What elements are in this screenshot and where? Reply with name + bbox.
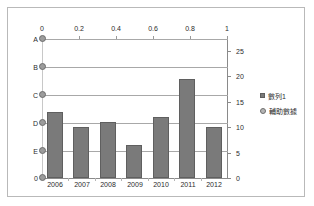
marker-point-c[interactable] — [39, 91, 46, 98]
gridline-b — [42, 67, 228, 68]
right-tick-25 — [227, 51, 231, 52]
top-tick-label-0-6: 0.6 — [148, 25, 158, 32]
top-tick-label-0-2: 0.2 — [74, 25, 84, 32]
gridline-a — [42, 39, 228, 40]
chart-frame: A B C D E 0 0 5 10 15 20 25 0 0.2 0.4 0.… — [7, 7, 305, 197]
right-tick-label-25: 25 — [236, 48, 244, 55]
bar-2010[interactable] — [153, 117, 169, 178]
right-axis-labels: 0 5 10 15 20 25 — [236, 39, 260, 179]
bar-2009[interactable] — [126, 145, 142, 178]
chart-legend: 數列1 輔助數據 — [260, 91, 308, 121]
legend-label-auxdata: 輔助數據 — [269, 106, 297, 116]
category-label-2012: 2012 — [206, 181, 222, 188]
legend-square-icon — [260, 93, 265, 98]
category-label-2009: 2009 — [127, 181, 143, 188]
category-label-2006: 2006 — [47, 181, 63, 188]
bottom-axis-labels: 2006 2007 2008 2009 2010 2011 2012 — [42, 181, 228, 193]
legend-item-series1[interactable]: 數列1 — [260, 91, 308, 100]
top-tick-label-1: 1 — [225, 25, 229, 32]
bar-2006[interactable] — [47, 112, 63, 178]
left-tick-label-e: E — [33, 148, 38, 155]
legend-circle-icon — [260, 108, 266, 114]
right-tick-10 — [227, 127, 231, 128]
left-axis-line — [42, 39, 43, 179]
category-label-2010: 2010 — [153, 181, 169, 188]
bar-2011[interactable] — [179, 79, 195, 178]
marker-point-b[interactable] — [39, 63, 46, 70]
left-tick-label-zero: 0 — [34, 175, 38, 182]
top-axis-labels: 0 0.2 0.4 0.6 0.8 1 — [42, 25, 228, 37]
right-tick-label-20: 20 — [236, 73, 244, 80]
plot-area — [42, 39, 228, 179]
left-tick-label-d: D — [33, 120, 38, 127]
marker-point-d[interactable] — [39, 119, 46, 126]
right-tick-label-15: 15 — [236, 99, 244, 106]
top-tick-label-0-8: 0.8 — [185, 25, 195, 32]
left-axis-labels: A B C D E 0 — [22, 39, 38, 179]
right-tick-label-5: 5 — [236, 150, 240, 157]
category-label-2011: 2011 — [180, 181, 195, 188]
right-tick-15 — [227, 102, 231, 103]
right-tick-5 — [227, 153, 231, 154]
category-label-2007: 2007 — [74, 181, 90, 188]
top-tick-label-0: 0 — [40, 25, 44, 32]
legend-item-auxdata[interactable]: 輔助數據 — [260, 106, 308, 115]
marker-point-e[interactable] — [39, 147, 46, 154]
legend-label-series1: 數列1 — [268, 91, 286, 101]
right-axis-line — [227, 39, 228, 179]
gridline-d — [42, 123, 228, 124]
left-tick-label-b: B — [33, 64, 38, 71]
top-tick-label-0-4: 0.4 — [111, 25, 121, 32]
bar-2007[interactable] — [73, 127, 89, 178]
right-tick-label-10: 10 — [236, 124, 244, 131]
bar-2008[interactable] — [100, 122, 116, 178]
left-tick-label-c: C — [33, 92, 38, 99]
right-tick-20 — [227, 76, 231, 77]
bar-2012[interactable] — [206, 127, 222, 178]
marker-point-zero[interactable] — [39, 174, 46, 181]
left-tick-label-a: A — [33, 36, 38, 43]
right-tick-0 — [227, 178, 231, 179]
gridline-c — [42, 95, 228, 96]
right-tick-label-0: 0 — [236, 175, 240, 182]
category-label-2008: 2008 — [100, 181, 116, 188]
